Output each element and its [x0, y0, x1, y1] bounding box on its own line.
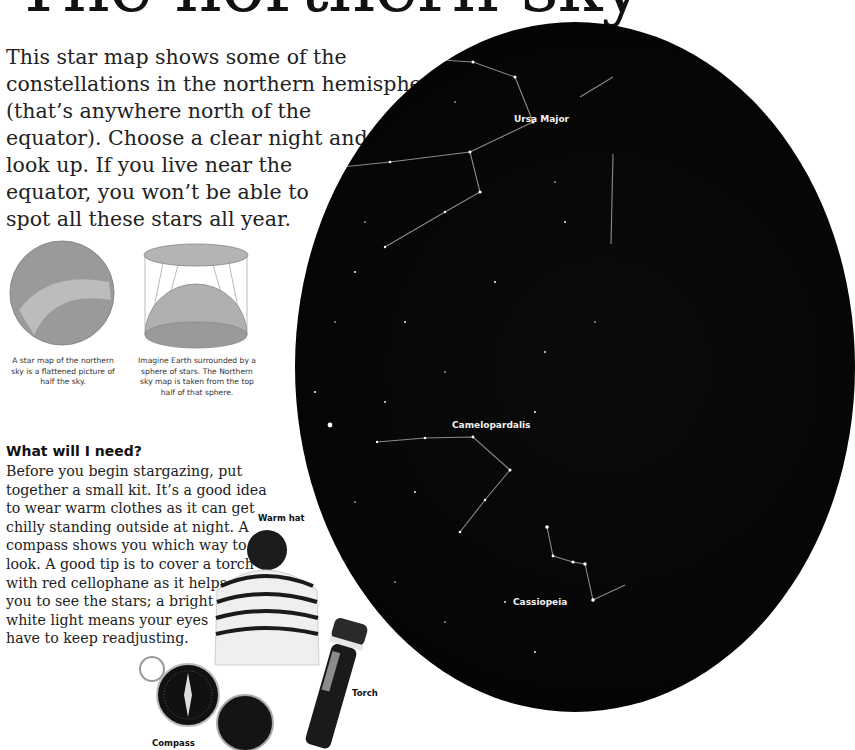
- constellation-lines: [295, 22, 855, 712]
- compass-icon: [135, 655, 285, 750]
- sky-sphere-projection-diagram: [143, 243, 249, 353]
- torch-icon: [292, 612, 372, 750]
- page-title: The northern sky: [14, 0, 642, 22]
- diagram-caption: A star map of the northern sky is a flat…: [2, 356, 124, 388]
- star-map: Ursa Major Camelopardalis Cassiopeia: [295, 22, 855, 712]
- diagram-caption: Imagine Earth surrounded by a sphere of …: [136, 356, 258, 398]
- item-label-warm-hat: Warm hat: [258, 513, 305, 523]
- stars: [314, 57, 596, 652]
- constellation-label-ursa-major: Ursa Major: [514, 114, 569, 124]
- flattened-star-map-diagram: [9, 240, 115, 346]
- section-heading: What will I need?: [6, 443, 142, 459]
- constellation-label-camelopardalis: Camelopardalis: [452, 420, 530, 430]
- item-label-torch: Torch: [352, 688, 378, 698]
- constellation-label-cassiopeia: Cassiopeia: [513, 597, 567, 607]
- item-label-compass: Compass: [152, 738, 195, 748]
